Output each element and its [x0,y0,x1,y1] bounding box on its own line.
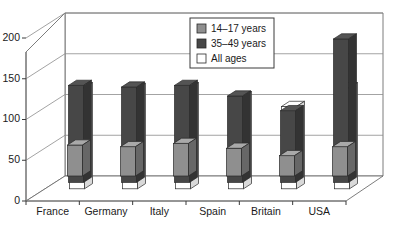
bar-front-face [333,147,348,176]
category-label: Spain [199,205,226,217]
bar-chart-3d: 050100150200 USABritainSpainItalyGermany… [0,0,393,233]
white-swatch [197,54,206,63]
y-tick-label: 200 [2,31,20,43]
y-axis-ticks: 050100150200 [2,31,26,206]
bar-side-face [83,140,91,176]
chart-legend: 14–17 years35–49 yearsAll ages [190,18,274,68]
bar-side-face [348,141,356,176]
category-label: USA [309,205,331,217]
dark-swatch [197,39,206,48]
bar-front-face [280,156,295,176]
bar-group [227,91,252,189]
bar-front-face [174,143,189,176]
legend-label: 35–49 years [211,38,266,49]
y-tick-label: 100 [2,112,20,124]
gray-swatch [197,24,206,33]
category-label: Britain [251,205,281,217]
bar-group [280,101,305,189]
bar-front-face [121,147,136,176]
category-label: France [36,205,69,217]
y-tick-label: 150 [2,72,20,84]
bar-group [68,80,93,189]
bar-side-face [189,138,197,176]
bar-front-face [68,145,83,176]
legend-label: 14–17 years [211,23,266,34]
bar-side-face [242,143,250,176]
y-tick-label: 0 [14,194,20,206]
category-label: Italy [150,205,170,217]
x-axis-ticks [26,201,346,205]
bar-group [333,34,358,189]
bar-group [174,80,199,189]
y-tick-label: 50 [8,153,20,165]
x-axis [26,201,346,205]
chart-container: 050100150200 USABritainSpainItalyGermany… [0,0,393,233]
bar-side-face [136,141,144,176]
bar-group [121,82,146,189]
category-label: Germany [84,205,128,217]
category-labels: USABritainSpainItalyGermanyFrance [36,205,330,217]
legend-label: All ages [211,53,247,64]
y-axis: 050100150200 [2,31,26,206]
bar-front-face [227,148,242,176]
